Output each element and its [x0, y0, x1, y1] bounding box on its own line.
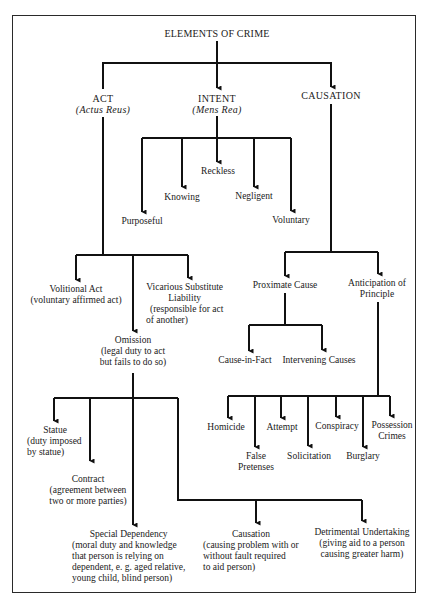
vicarious-label: Vicarious Substitute — [146, 282, 223, 293]
cause-in-fact-label: Cause-in-Fact — [218, 355, 271, 365]
omission-causation-label: Causation — [203, 529, 299, 540]
node-omission-causation: Causation (causing problem with or witho… — [203, 529, 299, 573]
node-act: ACT (Actus Reus) — [76, 93, 130, 115]
possession-label: Possession — [371, 420, 412, 431]
omission-causation-sub2: without fault required — [203, 551, 299, 562]
negligent-label: Negligent — [235, 191, 272, 201]
node-anticipation-of-principle: Anticipation of Principle — [348, 278, 406, 300]
node-possession-crimes: Possession Crimes — [371, 420, 412, 442]
intent-sub: (Mens Rea) — [192, 104, 241, 115]
attempt-label: Attempt — [266, 422, 297, 432]
node-burglary: Burglary — [346, 451, 380, 462]
contract-sub1: (agreement between — [49, 485, 126, 496]
statue-sub2: by statue) — [27, 447, 83, 458]
volitional-sub: (voluntary affirmed act) — [30, 295, 121, 306]
act-sub: (Actus Reus) — [76, 104, 130, 115]
detrimental-sub2: causing greater harm) — [314, 549, 409, 560]
node-reckless: Reckless — [201, 166, 235, 177]
intervening-causes-label: Intervening Causes — [282, 355, 355, 365]
node-cause-in-fact: Cause-in-Fact — [218, 355, 271, 366]
node-proximate-cause: Proximate Cause — [253, 280, 318, 291]
special-dependency-label: Special Dependency — [72, 529, 185, 540]
volitional-label: Volitional Act — [30, 284, 121, 295]
omission-sub1: (legal duty to act — [100, 346, 167, 357]
detrimental-label: Detrimental Undertaking — [314, 527, 409, 538]
special-dependency-sub2: that person is relying on — [72, 551, 185, 562]
solicitation-label: Solicitation — [287, 451, 331, 461]
vicarious-sub1: (responsible for act — [146, 304, 223, 315]
possession-line2: Crimes — [371, 431, 412, 442]
node-statue: Statue (duty imposed by statue) — [27, 425, 83, 458]
homicide-label: Homicide — [207, 422, 244, 432]
node-knowing: Knowing — [164, 192, 199, 203]
proximate-label: Proximate Cause — [253, 280, 318, 291]
false-pretenses-label: False — [238, 451, 274, 462]
knowing-label: Knowing — [164, 192, 199, 202]
node-attempt: Attempt — [266, 422, 297, 433]
act-label: ACT — [76, 93, 130, 104]
node-intent: INTENT (Mens Rea) — [192, 93, 241, 115]
node-voluntary: Voluntary — [272, 215, 309, 226]
root-label: ELEMENTS OF CRIME — [164, 28, 269, 39]
node-causation: CAUSATION — [301, 90, 360, 101]
node-purposeful: Purposeful — [121, 216, 162, 227]
node-vicarious-liability: Vicarious Substitute Liability (responsi… — [146, 282, 223, 326]
omission-causation-sub1: (causing problem with or — [203, 540, 299, 551]
contract-sub2: two or more parties) — [49, 496, 126, 507]
detrimental-sub1: (giving aid to a person — [314, 538, 409, 549]
vicarious-line2: Liability — [146, 293, 223, 304]
node-conspiracy: Conspiracy — [315, 421, 358, 432]
node-special-dependency: Special Dependency (moral duty and knowl… — [72, 529, 185, 584]
voluntary-label: Voluntary — [272, 215, 309, 225]
node-omission: Omission (legal duty to act but fails to… — [100, 335, 167, 368]
anticipation-line2: Principle — [348, 289, 406, 300]
purposeful-label: Purposeful — [121, 216, 162, 226]
intent-label: INTENT — [192, 93, 241, 104]
node-false-pretenses: False Pretenses — [238, 451, 274, 473]
node-intervening-causes: Intervening Causes — [282, 355, 355, 366]
node-solicitation: Solicitation — [287, 451, 331, 462]
reckless-label: Reckless — [201, 166, 235, 176]
special-dependency-sub1: (moral duty and knowledge — [72, 540, 185, 551]
omission-sub2: but fails to do so) — [100, 357, 167, 368]
node-negligent: Negligent — [235, 191, 272, 202]
anticipation-label: Anticipation of — [348, 278, 406, 289]
statue-sub1: (duty imposed — [27, 436, 83, 447]
omission-causation-sub3: to aid person) — [203, 562, 299, 573]
false-pretenses-line2: Pretenses — [238, 462, 274, 473]
node-detrimental-undertaking: Detrimental Undertaking (giving aid to a… — [314, 527, 409, 560]
conspiracy-label: Conspiracy — [315, 421, 358, 431]
omission-label: Omission — [100, 335, 167, 346]
contract-label: Contract — [49, 474, 126, 485]
burglary-label: Burglary — [346, 451, 380, 461]
special-dependency-sub3: dependent, e. g. aged relative, — [72, 562, 185, 573]
node-volitional-act: Volitional Act (voluntary affirmed act) — [30, 284, 121, 306]
node-homicide: Homicide — [207, 422, 244, 433]
vicarious-sub2: of another) — [146, 315, 223, 326]
root-elements-of-crime: ELEMENTS OF CRIME — [164, 28, 269, 39]
special-dependency-sub4: young child, blind person) — [72, 573, 185, 584]
node-contract: Contract (agreement between two or more … — [49, 474, 126, 507]
causation-label: CAUSATION — [301, 90, 360, 101]
statue-label: Statue — [27, 425, 83, 436]
